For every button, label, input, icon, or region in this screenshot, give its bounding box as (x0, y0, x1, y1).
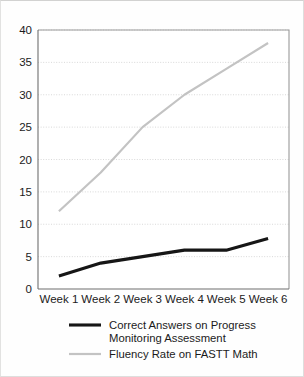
legend-label-1: Correct Answers on Progress (109, 319, 256, 331)
x-tick-label-4: Week 4 (165, 293, 204, 305)
y-tick-label-15: 15 (19, 186, 32, 198)
x-axis-tick-labels: Week 1Week 2Week 3Week 4Week 5Week 6 (40, 293, 288, 305)
y-tick-label-35: 35 (19, 56, 32, 68)
y-tick-label-25: 25 (19, 121, 32, 133)
x-tick-label-6: Week 6 (249, 293, 288, 305)
y-axis-tick-labels: 0510152025303540 (19, 24, 32, 295)
y-tick-label-40: 40 (19, 24, 32, 36)
legend-label-1-line2: Monitoring Assessment (109, 332, 227, 344)
y-tick-label-10: 10 (19, 218, 32, 230)
chart-figure: 0510152025303540 Week 1Week 2Week 3Week … (0, 0, 304, 377)
x-tick-label-1: Week 1 (40, 293, 79, 305)
y-tick-label-20: 20 (19, 154, 32, 166)
y-tick-label-0: 0 (26, 283, 32, 295)
legend-label-2: Fluency Rate on FASTT Math (109, 348, 258, 360)
x-tick-label-2: Week 2 (81, 293, 120, 305)
chart-legend: Correct Answers on ProgressMonitoring As… (69, 319, 258, 360)
y-tick-label-5: 5 (26, 251, 32, 263)
line-chart: 0510152025303540 Week 1Week 2Week 3Week … (1, 1, 304, 377)
x-tick-label-5: Week 5 (207, 293, 246, 305)
y-tick-label-30: 30 (19, 89, 32, 101)
x-tick-label-3: Week 3 (123, 293, 162, 305)
